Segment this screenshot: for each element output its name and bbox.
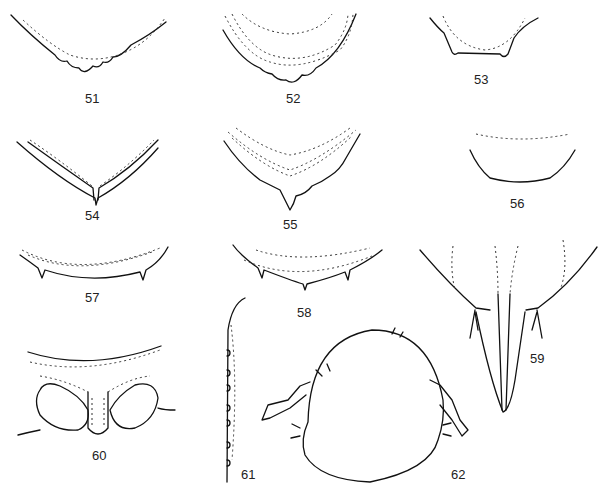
panel-53-drawing <box>430 16 538 57</box>
panel-label-61: 61 <box>241 468 255 481</box>
panel-label-54: 54 <box>85 209 99 222</box>
panel-label-58: 58 <box>297 306 311 319</box>
panel-61-drawing <box>227 298 245 482</box>
panel-56-drawing <box>470 134 575 182</box>
figure-plate <box>0 0 605 495</box>
panel-label-53: 53 <box>474 73 488 86</box>
panel-label-62: 62 <box>451 468 465 481</box>
panel-label-56: 56 <box>510 197 524 210</box>
panel-59-drawing <box>420 240 597 412</box>
panel-60-drawing <box>18 346 175 435</box>
panel-label-52: 52 <box>286 92 300 105</box>
panel-52-drawing <box>223 14 356 82</box>
panel-label-57: 57 <box>85 291 99 304</box>
panel-label-59: 59 <box>530 352 544 365</box>
panel-58-drawing <box>233 245 382 290</box>
panel-51-drawing <box>11 15 166 72</box>
panel-62-drawing <box>262 328 468 482</box>
panel-54-drawing <box>17 140 158 205</box>
panel-label-55: 55 <box>283 218 297 231</box>
panel-label-51: 51 <box>85 92 99 105</box>
panel-55-drawing <box>224 128 360 210</box>
panel-label-60: 60 <box>92 449 106 462</box>
panel-57-drawing <box>20 247 168 280</box>
